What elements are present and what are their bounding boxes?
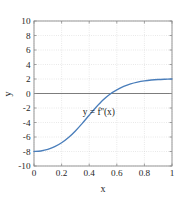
x-tick-label: 0.6 [111,168,123,178]
y-tick-label: 6 [26,45,31,55]
y-tick-label: 4 [26,60,31,70]
plot-area: -10-8-6-4-20246810 00.20.40.60.81 y = f'… [0,0,183,197]
y-tick-label: -2 [23,103,31,113]
chart-figure: -10-8-6-4-20246810 00.20.40.60.81 y = f'… [0,0,183,197]
y-tick-label: 8 [26,31,31,41]
x-axis-title: x [101,183,106,194]
y-tick-label: 0 [26,89,31,99]
y-tick-label: -10 [18,161,31,171]
y-tick-label: 10 [21,16,31,26]
y-tick-labels: -10-8-6-4-20246810 [18,16,31,171]
y-tick-label: -8 [23,147,31,157]
x-tick-label: 0 [32,168,37,178]
x-tick-label: 0.4 [83,168,95,178]
curve-equation-label: y = f''(x) [83,107,115,118]
x-tick-label: 0.2 [56,168,68,178]
x-tick-label: 0.8 [139,168,151,178]
y-axis-title: y [2,92,13,97]
curve-annotation-group: y = f''(x) [83,107,115,118]
y-tick-label: -4 [23,118,31,128]
y-tick-label: 2 [26,74,31,84]
x-tick-labels: 00.20.40.60.81 [32,168,175,178]
y-tick-label: -6 [23,132,31,142]
x-tick-label: 1 [170,168,175,178]
